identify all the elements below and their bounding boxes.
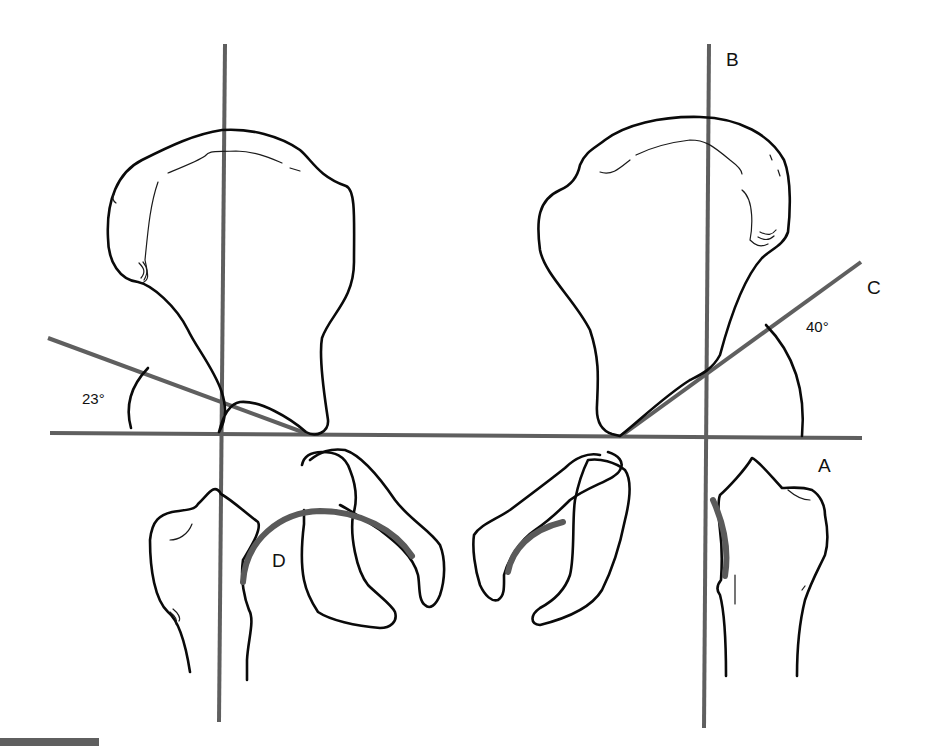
vertical-axis-b [704,44,709,728]
angle-label-right: 40° [806,318,829,335]
labels: 23° 40° A B C D [82,49,881,571]
left-upper-bone-inner-line [142,182,158,283]
right-tibia-profile [717,458,827,676]
articular-surface-d [243,511,412,582]
left-upper-bone-inner-ridge [168,151,300,173]
right-upper-bone [538,117,789,436]
right-upper-bone-hatch [758,155,780,240]
angle-arc-left [129,368,148,428]
label-c: C [867,277,881,298]
left-talus-outline [302,452,396,628]
angle-label-left: 23° [82,390,105,407]
right-upper-bone-outline [538,117,789,436]
angle-arc-right [766,325,803,436]
vertical-axis-left [219,44,225,722]
scale-bar [0,738,99,746]
diagram-canvas: 23° 40° A B C D [0,0,925,754]
horizontal-baseline-a [50,433,862,438]
right-upper-bone-inner-ridge [600,140,742,174]
label-d: D [272,550,286,571]
oblique-line-left-23deg [48,338,305,433]
left-tibia-notch [170,524,192,540]
right-tibia-notch [788,490,810,500]
right-talus-outline [533,459,630,625]
oblique-line-c-40deg [621,262,861,436]
label-a: A [818,455,831,476]
left-upper-bone [108,130,354,435]
right-lower-bones [473,452,827,676]
articular-surfaces [243,500,727,582]
label-b: B [726,49,739,70]
left-lower-bones [150,449,444,680]
right-tibia-mark [802,586,805,590]
right-upper-bone-inner-line [742,190,768,246]
left-upper-bone-mark [113,194,116,203]
